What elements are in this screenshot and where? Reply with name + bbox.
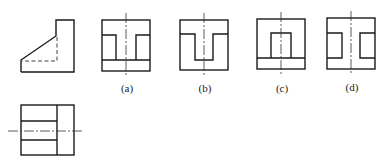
option-b[interactable]: (b) (180, 13, 228, 95)
side-view-hidden-lines (21, 37, 57, 61)
option-d[interactable]: (d) (327, 11, 375, 94)
side-view-outline (21, 20, 74, 72)
option-a-label: (a) (121, 82, 134, 95)
option-a-left-pocket (102, 35, 116, 60)
option-d-right-pocket (360, 33, 375, 58)
option-c-label: (c) (276, 82, 289, 95)
option-d-left-pocket (327, 33, 342, 58)
option-b-label: (b) (199, 82, 212, 95)
technical-drawing: (a) (b) (c) (d) (0, 0, 386, 166)
given-top-view (8, 105, 82, 155)
option-d-label: (d) (346, 81, 359, 94)
given-side-view (21, 20, 74, 72)
option-c[interactable]: (c) (257, 12, 305, 95)
top-view-outline (21, 105, 74, 155)
option-a-right-pocket (136, 35, 150, 60)
option-a[interactable]: (a) (102, 13, 150, 95)
